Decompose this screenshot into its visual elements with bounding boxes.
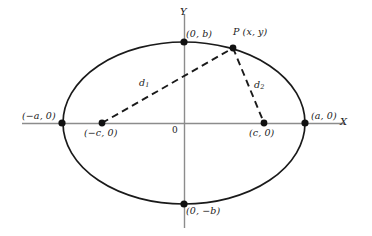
y-axis-label: Y [180,7,187,17]
point-p-label: P (x, y) [233,27,267,37]
distance-d2-label: d2 [254,80,264,90]
vertex-right-label: (a, 0) [311,111,337,121]
focus-left-label: (−c, 0) [84,128,117,138]
point-p [230,45,237,52]
distance-d1-label: d1 [139,78,149,88]
x-axis-label: X [340,117,347,127]
distance-d2-subscript: 2 [260,83,264,91]
origin-label: 0 [172,126,178,135]
point-vertex-left [58,119,65,126]
segment-d1 [102,48,233,123]
distance-d1-subscript: 1 [145,81,149,89]
vertex-left-label: (−a, 0) [22,111,56,121]
focus-right-label: (c, 0) [249,128,274,138]
co-vertex-top-label: (0, b) [186,29,212,39]
point-vertex-right [301,119,308,126]
point-focus-right [261,120,268,127]
point-focus-left [99,120,106,127]
ellipse-diagram: X Y 0 (0, b) (0, −b) (−a, 0) (a, 0) (−c,… [0,0,372,236]
point-co-vertex-top [180,38,187,45]
co-vertex-bottom-label: (0, −b) [186,206,220,216]
